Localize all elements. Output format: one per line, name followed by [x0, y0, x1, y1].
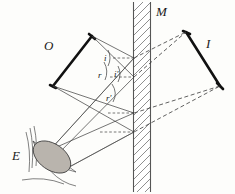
plane-mirror: [133, 0, 151, 194]
label-mirror: M: [155, 4, 168, 19]
observer-eye: [22, 126, 77, 186]
label-angle-reflection-2: r': [106, 93, 113, 103]
label-image: I: [205, 36, 211, 51]
virtual-image-arrow: [183, 31, 223, 89]
object-arrow: [50, 34, 95, 88]
label-angle-incidence-1: i: [104, 53, 107, 63]
label-angle-incidence-2: i': [114, 69, 120, 79]
label-object: O: [44, 38, 54, 53]
optics-diagram-figure: O M I E i r i' r': [0, 0, 235, 194]
label-angle-reflection-1: r: [98, 70, 102, 80]
diagram-canvas: O M I E i r i' r': [0, 0, 235, 194]
label-eye: E: [11, 148, 20, 163]
